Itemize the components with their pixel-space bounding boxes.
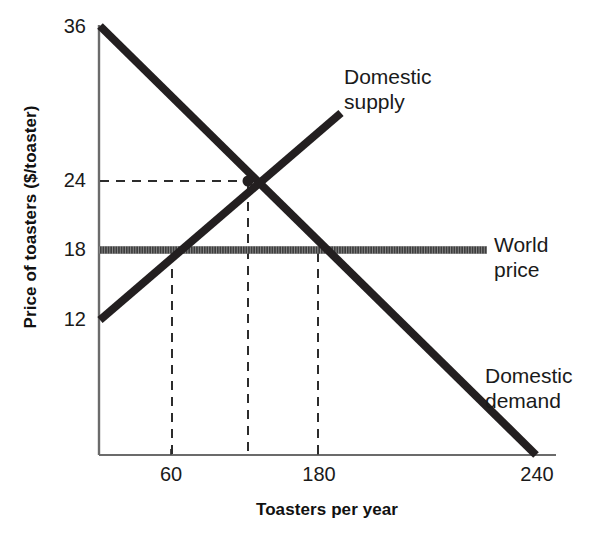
- domestic-demand-curve: [100, 26, 536, 455]
- x-axis-title: Toasters per year: [99, 500, 555, 520]
- domestic-demand-label: Domestic demand: [485, 363, 573, 413]
- world-price-label: World price: [494, 232, 548, 282]
- y-tick-label-12: 12: [38, 308, 86, 331]
- x-tick-label-180: 180: [284, 463, 354, 486]
- domestic-demand-label-line1: Domestic: [485, 363, 573, 388]
- world-price-label-line1: World: [494, 232, 548, 257]
- domestic-supply-label-line2: supply: [344, 89, 432, 114]
- x-tick-label-240: 240: [502, 463, 572, 486]
- equilibrium-point-marker: [243, 176, 254, 187]
- supply-demand-chart: Price of toasters ($/toaster) Toasters p…: [0, 0, 613, 558]
- y-tick-label-24: 24: [38, 169, 86, 192]
- y-tick-label-18: 18: [38, 238, 86, 261]
- domestic-supply-label: Domestic supply: [344, 64, 432, 114]
- x-tick-label-60: 60: [136, 463, 206, 486]
- domestic-demand-label-line2: demand: [485, 388, 573, 413]
- y-tick-label-36: 36: [38, 15, 86, 38]
- domestic-supply-label-line1: Domestic: [344, 64, 432, 89]
- world-price-label-line2: price: [494, 257, 548, 282]
